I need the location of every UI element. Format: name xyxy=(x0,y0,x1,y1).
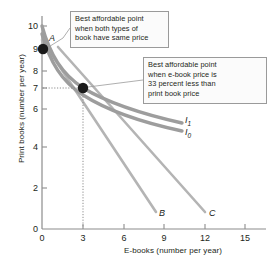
data-point-a[interactable] xyxy=(38,44,48,54)
callout-cheaper-ebook-line-3: 33 percent less than xyxy=(148,79,263,89)
callout-cheaper-ebook-line-4: print book price xyxy=(148,89,263,99)
x-axis-title: E-books (number per year) xyxy=(124,246,222,255)
callout-cheaper-ebook: Best affordable point when e-book price … xyxy=(143,57,267,104)
y-tick-label-10: 10 xyxy=(16,21,38,31)
x-tick-label-9: 9 xyxy=(154,233,174,243)
data-point-best-affordable-2[interactable] xyxy=(78,83,88,93)
chart-figure: 10 9 8 7 6 4 2 0 0 3 6 9 12 15 Print boo… xyxy=(0,0,271,263)
x-tick-label-0: 0 xyxy=(32,233,52,243)
curve-label-i0: I0 xyxy=(185,127,191,139)
curve-label-i1-sub: 1 xyxy=(188,120,192,127)
callout-same-price: Best affordable point when both types of… xyxy=(70,11,169,48)
x-axis-ticks xyxy=(83,224,245,229)
x-tick-label-3: 3 xyxy=(73,233,93,243)
y-axis-title: Print books (number per year) xyxy=(17,36,26,182)
x-tick-label-6: 6 xyxy=(114,233,134,243)
y-tick-label-2: 2 xyxy=(16,183,38,193)
budget-line-label-c: C xyxy=(209,208,216,218)
callout-same-price-line-1: Best affordable point xyxy=(75,14,165,24)
curve-label-i0-sub: 0 xyxy=(188,132,192,139)
callout-same-price-line-2: when both types of xyxy=(75,24,165,34)
x-tick-label-12: 12 xyxy=(195,233,215,243)
callout-cheaper-ebook-line-1: Best affordable point xyxy=(148,60,263,70)
curve-label-i1: I1 xyxy=(185,115,191,127)
x-tick-label-15: 15 xyxy=(235,233,255,243)
leader-line-callout-b xyxy=(88,80,143,87)
budget-line-label-b: B xyxy=(159,208,165,218)
callout-cheaper-ebook-line-2: when e-book price is xyxy=(148,70,263,80)
data-point-label-a: A xyxy=(49,33,55,43)
callout-same-price-line-3: book have same price xyxy=(75,33,165,43)
